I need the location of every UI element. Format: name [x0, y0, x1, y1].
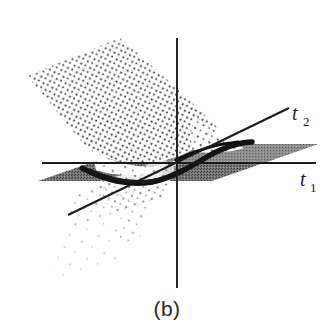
figure-container: t 2 t 1 (b) [0, 0, 334, 330]
t2-label-subscript: 2 [303, 114, 310, 129]
t2-label-letter: t [292, 102, 298, 124]
t1-label-subscript: 1 [310, 180, 317, 195]
t1-label-letter: t [300, 168, 306, 190]
figure-svg: t 2 t 1 (b) [0, 0, 334, 330]
figure-caption: (b) [153, 297, 180, 320]
